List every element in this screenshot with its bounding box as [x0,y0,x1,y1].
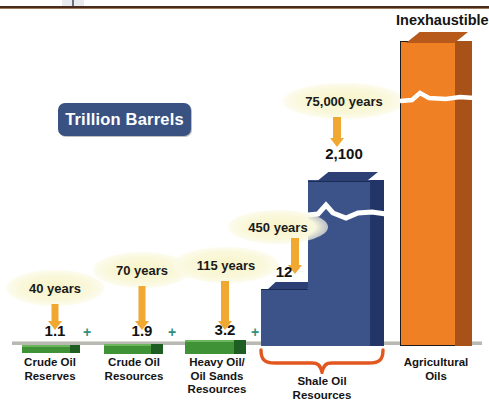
category-label-line: Shale Oil [276,374,368,388]
category-label-crude-oil-resources: Crude Oil Resources [88,356,180,383]
category-label-agricultural-oils: Agricultural Oils [390,356,482,383]
plus-operator-1: + [80,324,94,340]
callout-450-years: 450 years [228,210,328,244]
page-edge-line-secondary [0,8,489,9]
category-label-line: Crude Oil [4,356,96,370]
category-label-line: Oils [390,370,482,384]
brace-shale-oil [258,348,386,374]
value-label-1: 1.1 [25,322,85,339]
bar-agricultural-oils [400,32,472,346]
category-label-crude-oil-reserves: Crude Oil Reserves [4,356,96,383]
category-label-shale-oil: Shale Oil Resources [276,374,368,402]
scan-artifact-mark [72,0,74,6]
category-label-line: Reserves [4,370,96,384]
plus-operator-3: + [248,324,262,340]
category-label-line: Oil Sands [171,370,263,384]
callout-40-years: 40 years [6,270,104,306]
plus-operator-2: + [165,324,179,340]
value-label-5: 2,100 [311,145,377,162]
callout-75000-years: 75,000 years [283,83,405,119]
category-label-line: Resources [88,370,180,384]
value-label-3: 3.2 [195,321,255,338]
category-label-line: Resources [171,383,263,397]
inexhaustible-label: Inexhaustible [396,12,489,28]
chart-title-text: Trillion Barrels [58,103,191,136]
axis-break-zigzag-orange [398,86,476,108]
category-label-line: Agricultural [390,356,482,370]
category-label-line: Resources [276,388,368,402]
category-label-line: Heavy Oil/ [171,356,263,370]
value-label-2: 1.9 [112,322,172,339]
bar-crude-oil-resources [104,344,163,354]
bar-heavy-oil-sands [185,340,246,354]
bar-crude-oil-reserves [22,345,80,353]
arrow-down-icon-5 [323,117,351,147]
chart-title-badge: Trillion Barrels [58,103,191,136]
value-label-4: 12 [261,263,307,280]
category-label-line: Crude Oil [88,356,180,370]
chart-canvas: Trillion Barrels Inexhaustible 40 years … [0,0,489,418]
category-label-heavy-oil-sands: Heavy Oil/ Oil Sands Resources [171,356,263,397]
